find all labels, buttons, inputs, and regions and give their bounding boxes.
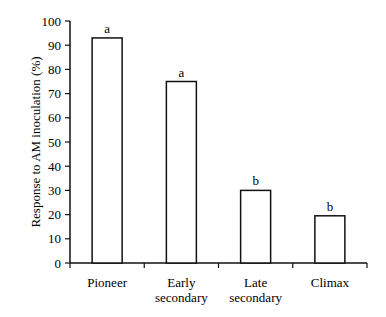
x-category-label: secondary bbox=[155, 290, 208, 305]
y-tick-label: 80 bbox=[48, 62, 61, 77]
y-tick-label: 30 bbox=[48, 183, 61, 198]
bar bbox=[92, 38, 122, 263]
significance-letter: a bbox=[104, 21, 110, 36]
y-tick-label: 90 bbox=[48, 38, 61, 53]
significance-letter: b bbox=[252, 173, 259, 188]
significance-letter: b bbox=[327, 199, 334, 214]
x-category-label: Climax bbox=[311, 275, 350, 290]
y-tick-label: 0 bbox=[55, 256, 62, 271]
x-category-label: Late bbox=[244, 275, 267, 290]
bar bbox=[166, 82, 196, 264]
y-tick-label: 10 bbox=[48, 231, 61, 246]
significance-letter: a bbox=[178, 65, 184, 80]
bar bbox=[241, 190, 271, 263]
y-tick-label: 70 bbox=[48, 86, 61, 101]
y-tick-label: 100 bbox=[42, 14, 62, 29]
y-tick-label: 20 bbox=[48, 207, 61, 222]
x-category-label: Early bbox=[167, 275, 196, 290]
x-category-label: Pioneer bbox=[87, 275, 127, 290]
x-category-label: secondary bbox=[229, 290, 282, 305]
bar-chart: 0102030405060708090100aPioneeraEarlyseco… bbox=[0, 0, 386, 317]
y-axis-label: Response to AM inoculation (%) bbox=[28, 56, 43, 227]
y-tick-label: 50 bbox=[48, 135, 61, 150]
y-tick-label: 60 bbox=[48, 110, 61, 125]
bar bbox=[315, 216, 345, 263]
y-tick-label: 40 bbox=[48, 159, 61, 174]
